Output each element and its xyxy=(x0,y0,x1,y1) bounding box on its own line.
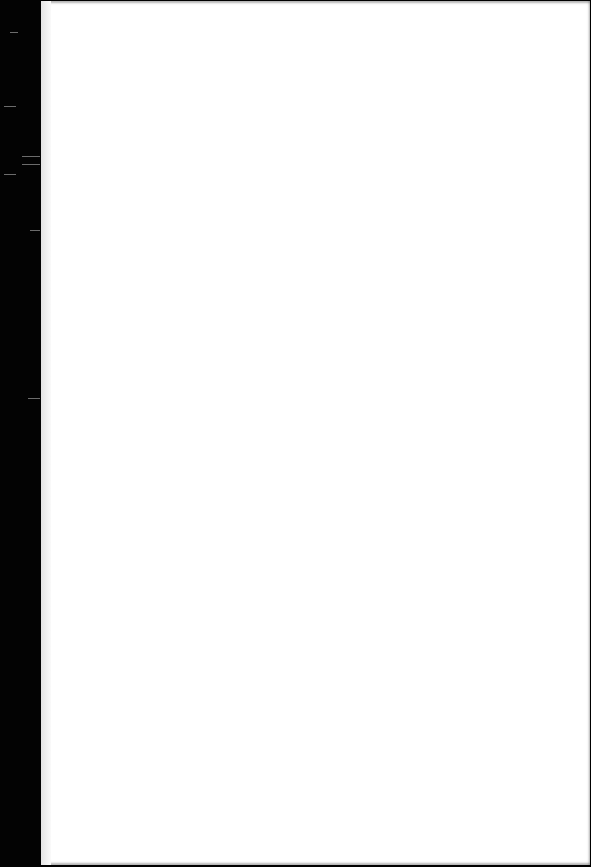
edge-artifact xyxy=(30,230,40,231)
page-content xyxy=(81,41,550,825)
edge-artifact xyxy=(4,106,16,107)
scanner-left-edge xyxy=(0,0,41,867)
edge-artifact xyxy=(4,174,16,175)
edge-artifact xyxy=(22,164,40,165)
page-gutter-shadow xyxy=(41,1,51,865)
blank-page xyxy=(41,1,590,865)
edge-artifact xyxy=(22,156,40,157)
scanned-document xyxy=(0,0,591,867)
edge-artifact xyxy=(28,398,40,399)
edge-artifact xyxy=(10,32,18,33)
